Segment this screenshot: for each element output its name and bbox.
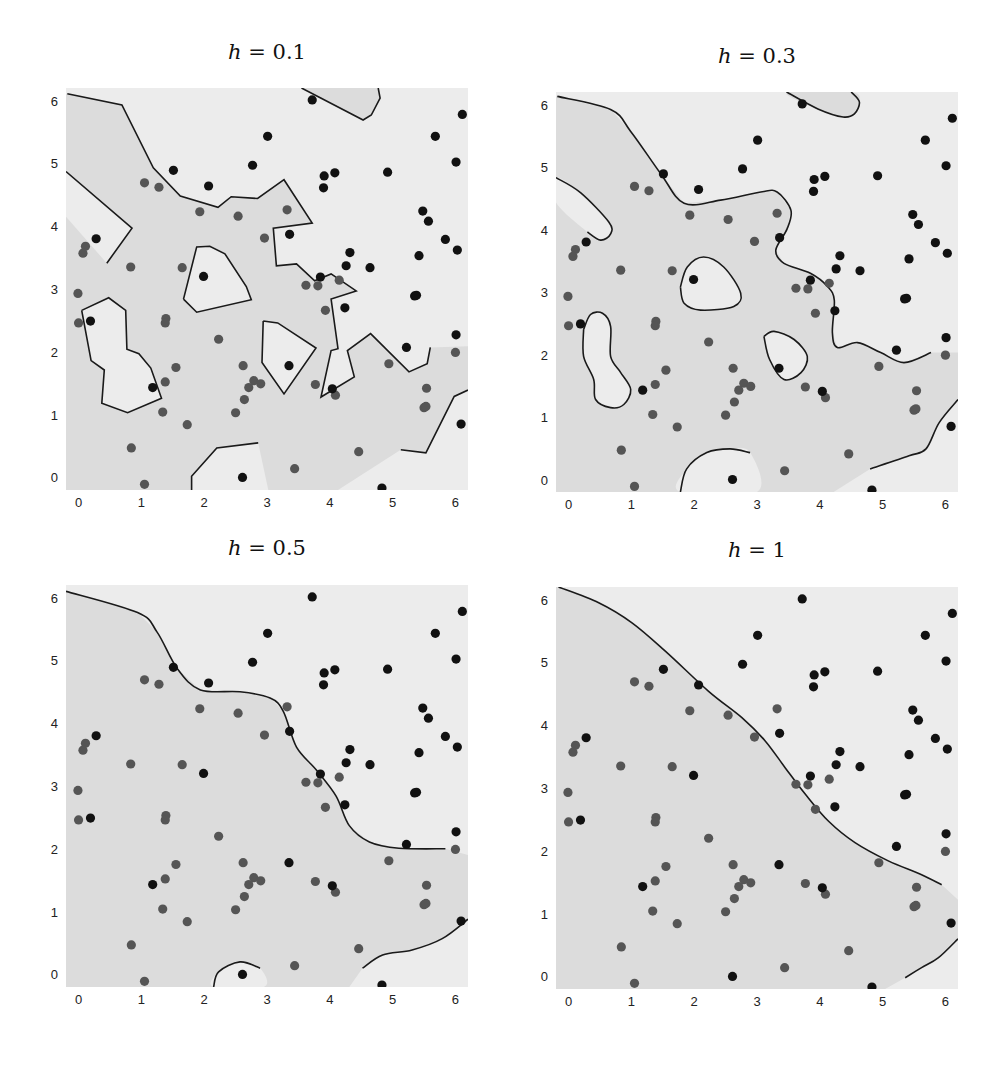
class-1-point [330, 665, 339, 674]
class-1-point [941, 333, 950, 342]
class-1-point [431, 629, 440, 638]
class-1-point [204, 678, 213, 687]
class-1-point [774, 860, 783, 869]
class-1-point [832, 264, 841, 273]
class-0-point [214, 335, 223, 344]
class-0-point [724, 215, 733, 224]
class-0-point [780, 963, 789, 972]
class-1-point [576, 319, 585, 328]
class-0-point [195, 704, 204, 713]
class-1-point [199, 272, 208, 281]
class-0-point [668, 762, 677, 771]
class-0-point [911, 404, 920, 413]
x-tick-label: 5 [389, 496, 396, 509]
y-tick-label: 0 [534, 970, 548, 983]
class-1-point [931, 238, 940, 247]
class-1-point [199, 769, 208, 778]
class-1-point [412, 788, 421, 797]
class-0-point [616, 266, 625, 275]
class-0-point [874, 858, 883, 867]
class-1-point [855, 762, 864, 771]
class-1-point [451, 158, 460, 167]
class-0-point [260, 731, 269, 740]
class-1-point [738, 164, 747, 173]
class-0-point [564, 321, 573, 330]
class-0-point [161, 377, 170, 386]
class-0-point [140, 675, 149, 684]
class-0-point [825, 775, 834, 784]
class-1-point [694, 680, 703, 689]
class-0-point [126, 262, 135, 271]
y-tick-label: 5 [534, 161, 548, 174]
class-0-point [685, 706, 694, 715]
class-1-point [830, 306, 839, 315]
y-tick-label: 6 [44, 94, 58, 107]
class-1-point [316, 272, 325, 281]
x-tick-label: 2 [201, 993, 208, 1006]
x-tick-label: 6 [452, 993, 459, 1006]
class-0-point [335, 773, 344, 782]
class-0-point [140, 480, 149, 489]
class-0-point [195, 207, 204, 216]
class-0-point [721, 411, 730, 420]
y-tick-label: 6 [44, 591, 58, 604]
class-1-point [638, 882, 647, 891]
class-0-point [283, 702, 292, 711]
class-1-point [431, 132, 440, 141]
class-0-point [161, 318, 170, 327]
y-tick-label: 5 [534, 656, 548, 669]
class-1-point [320, 668, 329, 677]
class-1-point [921, 631, 930, 640]
class-0-point [231, 408, 240, 417]
class-0-point [648, 410, 657, 419]
class-0-point [568, 252, 577, 261]
class-1-point [383, 665, 392, 674]
class-1-point [810, 670, 819, 679]
class-0-point [651, 817, 660, 826]
class-0-point [240, 892, 249, 901]
class-1-point [582, 237, 591, 246]
class-0-point [321, 803, 330, 812]
class-1-point [238, 970, 247, 979]
class-1-point [342, 261, 351, 270]
class-0-point [422, 881, 431, 890]
x-tick-label: 6 [942, 498, 949, 511]
class-1-point [342, 758, 351, 767]
y-tick-label: 2 [44, 842, 58, 855]
title-value: = 0.5 [248, 536, 306, 560]
plot-area [66, 88, 468, 490]
class-0-point [256, 876, 265, 885]
class-0-point [256, 379, 265, 388]
class-0-point [673, 422, 682, 431]
class-1-point [424, 714, 433, 723]
class-1-point [892, 842, 901, 851]
class-0-point [313, 281, 322, 290]
class-0-point [844, 449, 853, 458]
class-1-point [941, 829, 950, 838]
class-0-point [354, 447, 363, 456]
class-1-point [835, 251, 844, 260]
class-0-point [451, 348, 460, 357]
y-tick-label: 0 [44, 968, 58, 981]
x-tick-label: 3 [263, 496, 270, 509]
plot-area [556, 92, 958, 492]
y-tick-label: 4 [44, 717, 58, 730]
class-1-point [414, 748, 423, 757]
class-0-point [78, 746, 87, 755]
title-variable: h [228, 536, 242, 560]
class-0-point [171, 363, 180, 372]
class-1-point [285, 727, 294, 736]
class-1-point [946, 918, 955, 927]
class-1-point [340, 800, 349, 809]
class-1-point [451, 330, 460, 339]
class-0-point [721, 907, 730, 916]
class-0-point [750, 237, 759, 246]
class-0-point [301, 281, 310, 290]
plot-title: h = 0.1 [66, 40, 468, 64]
class-0-point [140, 178, 149, 187]
class-1-point [456, 419, 465, 428]
class-1-point [451, 655, 460, 664]
class-1-point [914, 220, 923, 229]
class-0-point [283, 205, 292, 214]
class-1-point [340, 303, 349, 312]
